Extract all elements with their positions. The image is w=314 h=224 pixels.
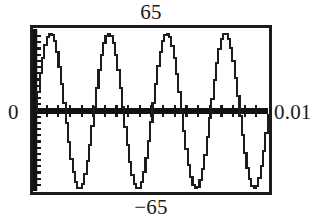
plot-figure: 65 −65 0 0.01 (0, 0, 314, 224)
x-axis-min-label: 0 (8, 102, 19, 123)
x-axis-max-label: 0.01 (274, 102, 312, 123)
plot-area (30, 25, 272, 195)
y-axis-max-label: 65 (0, 2, 302, 23)
y-axis-min-label: −65 (0, 197, 302, 218)
